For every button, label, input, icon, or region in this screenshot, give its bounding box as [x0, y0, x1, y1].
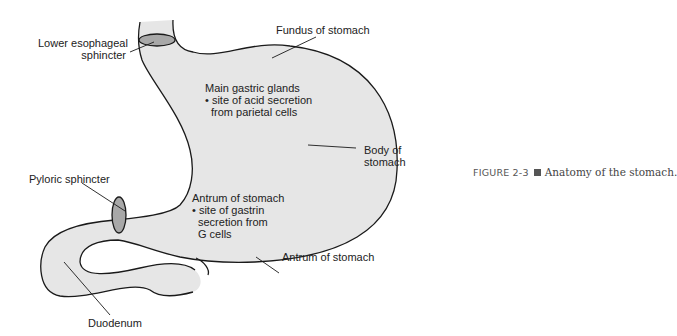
- label-line: G cells: [192, 228, 284, 240]
- pyloric-sphincter: [112, 197, 126, 233]
- label-line: Lower esophageal: [38, 37, 126, 49]
- figure-number: FIGURE 2-3: [473, 167, 529, 178]
- square-bullet-icon: [534, 169, 541, 176]
- label-lower-esophageal-sphincter: Lower esophageal sphincter: [38, 37, 126, 61]
- label-line: from parietal cells: [205, 106, 312, 118]
- label-antrum-of-stomach: Antrum of stomach: [282, 251, 374, 263]
- label-line: stomach: [364, 156, 406, 168]
- label-main-gastric-glands: Main gastric glands • site of acid secre…: [205, 82, 312, 118]
- label-pyloric-sphincter: Pyloric sphincter: [29, 173, 110, 185]
- label-fundus: Fundus of stomach: [276, 24, 370, 36]
- label-line: Main gastric glands: [205, 82, 312, 94]
- figure-title: Anatomy of the stomach.: [545, 166, 677, 178]
- label-duodenum: Duodenum: [88, 317, 142, 329]
- label-line: Antrum of stomach: [192, 192, 284, 204]
- label-line: secretion from: [192, 216, 284, 228]
- figure-caption: FIGURE 2-3Anatomy of the stomach.: [473, 166, 677, 178]
- lower-esophageal-sphincter: [139, 34, 175, 46]
- label-line: Body of: [364, 144, 406, 156]
- label-antrum-gastrin: Antrum of stomach • site of gastrin secr…: [192, 192, 284, 240]
- label-line: sphincter: [38, 49, 126, 61]
- label-line: • site of gastrin: [192, 204, 284, 216]
- label-line: • site of acid secretion: [205, 94, 312, 106]
- label-body-of-stomach: Body of stomach: [364, 144, 406, 168]
